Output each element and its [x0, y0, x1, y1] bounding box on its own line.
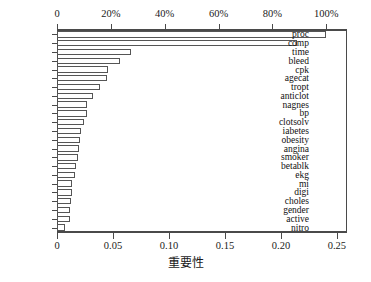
category-tick	[52, 105, 57, 106]
bar-agecat	[57, 75, 107, 81]
x-axis-title: 重要性	[0, 256, 371, 270]
category-label-nitro: nitro	[291, 223, 309, 233]
category-tick	[52, 184, 57, 185]
category-tick	[52, 34, 57, 35]
bar-ekg	[57, 172, 75, 178]
top-axis-tick-label: 60%	[209, 8, 228, 20]
bar-time	[57, 49, 131, 55]
category-tick	[52, 201, 57, 202]
category-tick	[52, 87, 57, 88]
bottom-axis-tick	[337, 233, 338, 239]
bottom-axis-tick-label: 0.25	[328, 240, 346, 252]
bar-clotsolv	[57, 119, 84, 125]
category-tick	[52, 166, 57, 167]
bottom-axis-tick	[113, 233, 114, 239]
bar-iabetes	[57, 128, 81, 134]
bottom-axis-tick	[169, 233, 170, 239]
bar-choles	[57, 198, 71, 204]
category-tick	[52, 140, 57, 141]
category-tick	[52, 157, 57, 158]
bar-smoker	[57, 154, 78, 160]
category-tick	[52, 122, 57, 123]
bar-nagnes	[57, 101, 87, 107]
top-axis-tick-label: 20%	[101, 8, 120, 20]
bar-active	[57, 216, 70, 222]
category-tick	[52, 131, 57, 132]
bar-digi	[57, 189, 72, 195]
bottom-axis-tick	[281, 233, 282, 239]
bar-nitro	[57, 224, 65, 230]
category-tick	[52, 43, 57, 44]
bar-angina	[57, 145, 79, 151]
bar-proc	[57, 31, 326, 37]
bar-cpk	[57, 66, 108, 72]
bottom-axis-tick-label: 0.05	[104, 240, 122, 252]
bottom-axis-tick	[225, 233, 226, 239]
bottom-axis-tick-label: 0.15	[216, 240, 234, 252]
bar-obesity	[57, 137, 80, 143]
variable-importance-chart: 020%40%60%80%100% 00.050.100.150.200.25 …	[0, 0, 371, 282]
top-axis-tick-label: 0	[54, 8, 59, 20]
top-axis-tick-label: 80%	[263, 8, 282, 20]
category-tick	[52, 210, 57, 211]
bottom-axis-tick-label: 0.20	[272, 240, 290, 252]
category-tick	[52, 219, 57, 220]
category-tick	[52, 149, 57, 150]
bar-tropt	[57, 84, 100, 90]
bottom-axis-tick	[57, 233, 58, 239]
category-tick	[52, 52, 57, 53]
bar-comp	[57, 40, 297, 46]
category-tick	[52, 228, 57, 229]
bar-gender	[57, 207, 70, 213]
bar-mi	[57, 180, 72, 186]
top-axis-tick-label: 100%	[314, 8, 339, 20]
bar-bp	[57, 110, 87, 116]
bar-anticlot	[57, 93, 93, 99]
category-tick	[52, 175, 57, 176]
category-tick	[52, 61, 57, 62]
bar-bleed	[57, 58, 120, 64]
category-tick	[52, 113, 57, 114]
bottom-axis-tick-label: 0	[54, 240, 59, 252]
category-tick	[52, 78, 57, 79]
bottom-axis-tick-label: 0.10	[160, 240, 178, 252]
category-tick	[52, 70, 57, 71]
category-tick	[52, 96, 57, 97]
bar-betablk	[57, 163, 76, 169]
top-axis-tick-label: 40%	[155, 8, 174, 20]
bottom-importance-axis: 00.050.100.150.200.25	[57, 232, 347, 242]
category-tick	[52, 192, 57, 193]
